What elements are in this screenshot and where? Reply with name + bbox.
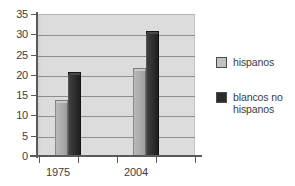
- x-tick-mark-4: [156, 157, 157, 163]
- y-tick-mark-30: [31, 34, 37, 35]
- legend-item-hispanos: hispanos: [216, 56, 295, 69]
- bar-hispanos-1975: [55, 103, 68, 156]
- plot-background: [37, 14, 195, 156]
- y-tick-mark-35: [31, 14, 37, 15]
- gridline-25: [37, 56, 195, 57]
- y-tick-mark-10: [31, 115, 37, 116]
- bar-hispanos-2004: [133, 71, 146, 156]
- plot-area-wrapper: [37, 14, 195, 156]
- y-tick-label-0: 0: [2, 151, 28, 162]
- legend-label-blancos-no-hispanos: blancos no hispanos: [233, 91, 295, 116]
- legend-item-blancos-no-hispanos: blancos no hispanos: [216, 91, 295, 116]
- y-tick-mark-0: [31, 156, 37, 157]
- y-tick-mark-20: [31, 75, 37, 76]
- x-tick-label-2004: 2004: [116, 166, 156, 178]
- bar-face: [133, 71, 146, 156]
- x-axis-line: [30, 155, 202, 157]
- legend-label-hispanos: hispanos: [233, 56, 274, 69]
- y-tick-mark-5: [31, 136, 37, 137]
- bar-chart-figure: 35 30 25 20 15 10 5 0 1975 2004 hispanos…: [0, 0, 295, 186]
- bar-face: [68, 75, 81, 156]
- gridline-15: [37, 96, 195, 97]
- y-tick-label-10: 10: [2, 110, 28, 121]
- chart-legend: hispanos blancos no hispanos: [216, 56, 295, 138]
- legend-swatch-icon-hispanos: [216, 57, 227, 68]
- x-tick-mark-2: [78, 157, 79, 163]
- bar-blancos-no-hispanos-1975: [68, 75, 81, 156]
- y-tick-label-15: 15: [2, 90, 28, 101]
- x-tick-mark-5: [195, 157, 196, 163]
- y-tick-mark-25: [31, 55, 37, 56]
- y-tick-label-35: 35: [2, 9, 28, 20]
- x-tick-mark-3: [117, 157, 118, 163]
- y-tick-label-30: 30: [2, 29, 28, 40]
- y-tick-label-20: 20: [2, 70, 28, 81]
- y-tick-label-5: 5: [2, 131, 28, 142]
- gridline-20: [37, 76, 195, 77]
- x-tick-label-1975: 1975: [38, 166, 78, 178]
- bar-blancos-no-hispanos-2004: [146, 34, 159, 156]
- bar-face: [55, 103, 68, 156]
- x-tick-mark-1: [39, 157, 40, 163]
- y-tick-mark-15: [31, 95, 37, 96]
- y-tick-label-25: 25: [2, 50, 28, 61]
- legend-swatch-icon-blancos-no-hispanos: [216, 92, 227, 103]
- bar-face: [146, 34, 159, 156]
- gridline-30: [37, 35, 195, 36]
